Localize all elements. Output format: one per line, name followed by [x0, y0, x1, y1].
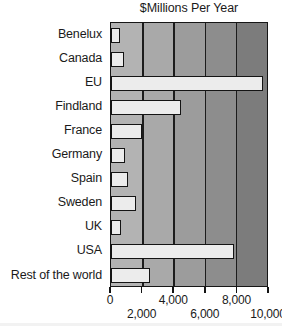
tick-label-6000: 6,000 — [190, 307, 219, 321]
tick-mark-2000 — [141, 287, 143, 293]
category-label-sweden: Sweden — [0, 191, 106, 215]
tick-label-0: 0 — [107, 293, 113, 307]
bar-row — [111, 71, 267, 95]
bar-row — [111, 23, 267, 47]
bar-row — [111, 264, 267, 287]
bar-rest-of-the-world — [111, 268, 150, 283]
bar-benelux — [111, 28, 120, 43]
bar-row — [111, 167, 267, 191]
category-label-spain: Spain — [0, 166, 106, 190]
bar-usa — [111, 244, 234, 259]
bar-france — [111, 124, 142, 139]
category-label-benelux: Benelux — [0, 22, 106, 46]
category-label-france: France — [0, 118, 106, 142]
value-axis: 02,0004,0006,0008,00010,000 — [110, 287, 268, 326]
bar-row — [111, 192, 267, 216]
bar-uk — [111, 220, 121, 235]
bar-eu — [111, 76, 263, 91]
category-label-canada: Canada — [0, 46, 106, 70]
tick-mark-10000 — [267, 287, 269, 293]
tick-label-4000: 4,000 — [159, 293, 188, 307]
category-label-eu: EU — [0, 70, 106, 94]
bar-row — [111, 47, 267, 71]
bar-findland — [111, 100, 181, 115]
tick-mark-6000 — [204, 287, 206, 293]
bar-chart: $Millions Per Year Benelux Canada EU Fin… — [0, 0, 282, 326]
bar-sweden — [111, 196, 136, 211]
bar-row — [111, 216, 267, 240]
bar-row — [111, 143, 267, 167]
bar-row — [111, 119, 267, 143]
category-label-germany: Germany — [0, 142, 106, 166]
bar-row — [111, 95, 267, 119]
chart-title: $Millions Per Year — [110, 1, 268, 15]
tick-label-10000: 10,000 — [250, 307, 282, 321]
category-label-uk: UK — [0, 215, 106, 239]
bar-germany — [111, 148, 125, 163]
category-label-rest-of-the-world: Rest of the world — [0, 263, 106, 287]
bar-row — [111, 240, 267, 264]
tick-label-2000: 2,000 — [127, 307, 156, 321]
category-label-findland: Findland — [0, 94, 106, 118]
category-axis-labels: Benelux Canada EU Findland France German… — [0, 22, 106, 287]
tick-label-8000: 8,000 — [222, 293, 251, 307]
bar-spain — [111, 172, 128, 187]
plot-area — [110, 22, 268, 287]
bar-canada — [111, 52, 124, 67]
bars-layer — [111, 23, 267, 286]
category-label-usa: USA — [0, 239, 106, 263]
